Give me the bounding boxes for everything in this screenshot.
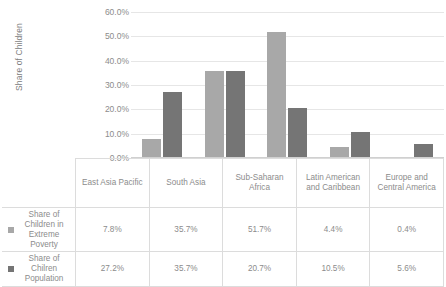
y-axis-title: Share of Children (14, 2, 24, 112)
table-value-cell: 27.2% (76, 252, 150, 287)
bar (142, 139, 161, 158)
bar-group (194, 12, 257, 158)
table-value-cell: 5.6% (370, 252, 444, 287)
bar (351, 132, 370, 158)
table-value-cell: 7.8% (76, 208, 150, 252)
legend-series-label: Share of Chilren Population (17, 254, 71, 284)
table-value-cell: 35.7% (149, 208, 223, 252)
table-category-header: Europe and Central America (370, 159, 444, 208)
bar (163, 92, 182, 158)
y-axis-tick-label: 50.0% (69, 31, 129, 41)
bar (267, 32, 286, 158)
table-row-categories: East Asia PacificSouth AsiaSub-Saharan A… (2, 159, 444, 208)
legend-entry-cell: Share of Chilren Population (2, 252, 76, 287)
plot-area: 60.0%50.0%40.0%30.0%20.0%10.0%0.0% (131, 12, 444, 158)
bars-layer (131, 12, 444, 158)
bar-group (256, 12, 319, 158)
bar (414, 144, 433, 158)
category-row-spacer (2, 159, 76, 208)
bar (226, 71, 245, 158)
legend-color-swatch (8, 227, 14, 233)
table-row-series-0: Share of Children in Extreme Poverty7.8%… (2, 208, 444, 252)
table-value-cell: 35.7% (149, 252, 223, 287)
table-category-header: South Asia (149, 159, 223, 208)
legend-color-swatch (8, 266, 14, 272)
table-value-cell: 20.7% (223, 252, 297, 287)
legend-series-label: Share of Children in Extreme Poverty (17, 210, 71, 249)
bar (288, 108, 307, 158)
y-axis-tick-label: 20.0% (69, 104, 129, 114)
bar-group (381, 12, 444, 158)
chart-data-table: East Asia PacificSouth AsiaSub-Saharan A… (2, 158, 444, 287)
table-category-header: East Asia Pacific (76, 159, 150, 208)
bar (205, 71, 224, 158)
bar-group (131, 12, 194, 158)
table-value-cell: 4.4% (296, 208, 370, 252)
table-category-header: Sub-Saharan Africa (223, 159, 297, 208)
y-axis-tick-label: 40.0% (69, 56, 129, 66)
y-axis-tick-label: 30.0% (69, 80, 129, 90)
bar-group (319, 12, 382, 158)
table-value-cell: 51.7% (223, 208, 297, 252)
legend-entry-cell: Share of Children in Extreme Poverty (2, 208, 76, 252)
y-axis-tick-label: 60.0% (69, 7, 129, 17)
table-value-cell: 0.4% (370, 208, 444, 252)
table-category-header: Latin American and Caribbean (296, 159, 370, 208)
y-axis-tick-label: 10.0% (69, 129, 129, 139)
table-value-cell: 10.5% (296, 252, 370, 287)
table-row-series-1: Share of Chilren Population27.2%35.7%20.… (2, 252, 444, 287)
